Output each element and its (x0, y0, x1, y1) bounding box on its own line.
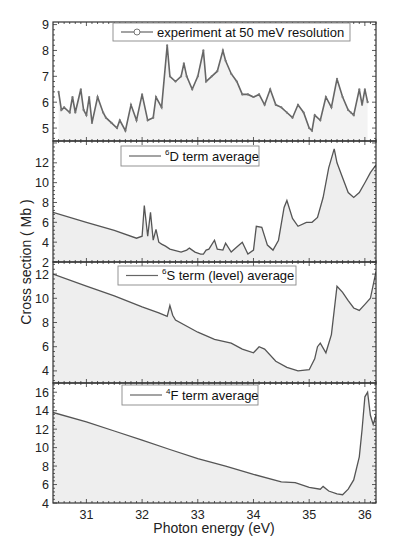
y-tick-label: 12 (35, 156, 49, 170)
data-point-marker (135, 119, 137, 121)
plot-area-6S (53, 272, 376, 383)
data-point-marker (205, 80, 207, 82)
data-point-marker (222, 49, 224, 51)
data-point-marker (358, 88, 360, 90)
data-point-marker (91, 122, 93, 124)
data-point-marker (367, 101, 369, 103)
data-point-marker (130, 104, 132, 106)
data-point-marker (105, 117, 107, 119)
y-tick-label: 8 (42, 44, 49, 58)
y-tick-label: 8 (42, 316, 49, 330)
data-point-marker (330, 106, 332, 108)
data-point-marker (280, 106, 282, 108)
data-point-marker (152, 117, 154, 119)
data-point-marker (247, 93, 249, 95)
data-point-marker (325, 96, 327, 98)
y-tick-label: 6 (42, 216, 49, 230)
data-point-marker (336, 78, 338, 80)
filled-area (59, 45, 368, 141)
data-point-marker (169, 75, 171, 77)
data-point-marker (364, 88, 366, 90)
panel-6S: 46810126S term (level) average (35, 262, 376, 383)
data-point-marker (225, 60, 227, 62)
x-axis-title: Photon energy (eV) (153, 520, 274, 536)
data-point-marker (353, 114, 355, 116)
legend-label: experiment at 50 meV resolution (157, 25, 344, 40)
y-tick-label: 12 (35, 268, 49, 282)
data-point-marker (314, 114, 316, 116)
filled-area (53, 392, 376, 503)
filled-area (53, 272, 376, 383)
legend-label: 4F term average (166, 387, 259, 403)
y-tick-label: 10 (35, 292, 49, 306)
data-point-marker (347, 109, 349, 111)
y-tick-label: 5 (42, 122, 49, 136)
y-tick-label: 6 (42, 340, 49, 354)
legend-4F: 4F term average (122, 385, 259, 405)
data-point-marker (216, 70, 218, 72)
y-tick-label: 10 (35, 441, 49, 455)
data-point-marker (341, 96, 343, 98)
data-point-marker (286, 111, 288, 113)
data-point-marker (308, 127, 310, 129)
data-point-marker (202, 49, 204, 51)
data-point-marker (303, 111, 305, 113)
y-tick-label: 7 (42, 70, 49, 84)
panel-6D: 246810126D term average (35, 141, 376, 270)
cropped-caption-line (8, 541, 388, 550)
y-tick-label: 4 (42, 236, 49, 250)
data-point-marker (269, 88, 271, 90)
data-point-marker (297, 104, 299, 106)
data-point-marker (191, 88, 193, 90)
legend-6D: 6D term average (121, 146, 259, 166)
data-point-marker (241, 93, 243, 95)
plot-area-experiment (57, 44, 368, 141)
y-tick-label: 14 (35, 404, 49, 418)
legend-6S: 6S term (level) average (118, 266, 296, 285)
y-tick-label: 4 (42, 364, 49, 378)
y-tick-label: 8 (42, 196, 49, 210)
legend-label: 6S term (level) average (162, 267, 294, 283)
y-tick-label: 6 (42, 478, 49, 492)
y-tick-label: 10 (35, 176, 49, 190)
data-point-marker (88, 96, 90, 98)
data-point-marker (291, 117, 293, 119)
data-point-marker (85, 114, 87, 116)
data-point-marker (230, 73, 232, 75)
data-point-marker (96, 96, 98, 98)
data-point-marker (74, 111, 76, 113)
data-point-marker (60, 109, 62, 111)
data-point-marker (211, 75, 213, 77)
legend-label: 6D term average (165, 148, 259, 164)
y-tick-label: 6 (42, 96, 49, 110)
data-point-marker (102, 111, 104, 113)
data-point-marker (166, 44, 168, 46)
x-tick-label: 36 (358, 508, 372, 522)
panel-experiment: 56789experiment at 50 meV resolution (42, 18, 376, 141)
data-point-marker (57, 91, 59, 93)
data-point-marker (160, 106, 162, 108)
data-point-marker (116, 127, 118, 129)
data-point-marker (63, 106, 65, 108)
legend-circle-marker-icon (134, 29, 140, 35)
data-point-marker (258, 93, 260, 95)
data-point-marker (275, 104, 277, 106)
data-point-marker (197, 75, 199, 77)
data-point-marker (236, 80, 238, 82)
data-point-marker (155, 96, 157, 98)
y-tick-label: 8 (42, 460, 49, 474)
data-point-marker (361, 104, 363, 106)
legend-experiment: experiment at 50 meV resolution (113, 23, 350, 41)
data-point-marker (183, 62, 185, 64)
y-tick-label: 9 (42, 18, 49, 32)
spectrum-figure: 56789experiment at 50 meV resolution2468… (0, 0, 394, 550)
data-point-marker (311, 130, 313, 132)
y-axis-title: Cross section ( Mb ) (18, 199, 34, 324)
y-tick-label: 16 (35, 386, 49, 400)
data-point-marker (180, 75, 182, 77)
data-point-marker (350, 111, 352, 113)
x-tick-label: 32 (135, 508, 149, 522)
data-point-marker (69, 111, 71, 113)
panel-4F: 468101214164F term average (35, 383, 376, 511)
data-point-marker (252, 96, 254, 98)
